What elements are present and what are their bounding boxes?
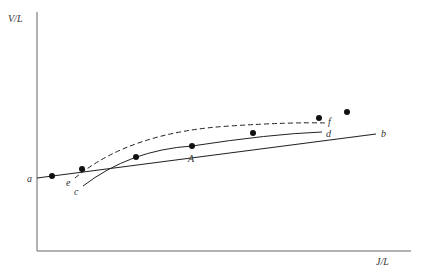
point-6 <box>316 115 322 121</box>
y-axis-label: V/L <box>8 13 23 24</box>
label-d: d <box>326 128 332 139</box>
label-c: c <box>74 186 79 197</box>
label-a: a <box>27 173 32 184</box>
x-axis-label: J/L <box>376 256 389 267</box>
label-e: e <box>66 177 71 188</box>
diagram: V/L J/L a b e f c d A <box>0 0 427 278</box>
point-5 <box>250 130 256 136</box>
label-b: b <box>381 128 386 139</box>
label-f: f <box>328 116 332 127</box>
point-1 <box>49 173 55 179</box>
curve-c-d <box>83 132 322 186</box>
point-2 <box>79 166 85 172</box>
label-A: A <box>187 153 195 164</box>
curve-e-f <box>75 123 327 178</box>
point-7 <box>344 109 350 115</box>
point-3 <box>133 154 139 160</box>
point-A <box>189 143 195 149</box>
line-a-b <box>37 134 376 178</box>
